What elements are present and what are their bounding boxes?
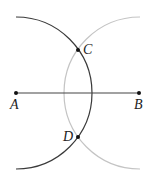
label-c: C [83, 43, 92, 57]
point-b [137, 91, 141, 95]
label-d: D [63, 130, 73, 144]
construction-diagram: A B C D [0, 0, 150, 180]
point-a [14, 91, 18, 95]
point-d [76, 135, 80, 139]
diagram-svg [0, 0, 150, 180]
point-c [76, 48, 80, 52]
label-a: A [10, 98, 19, 112]
label-b: B [134, 98, 143, 112]
